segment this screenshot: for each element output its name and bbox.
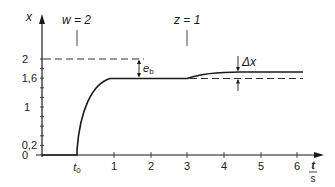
x-tick-5: 5 [258, 160, 264, 172]
x-tick-t0: t0 [73, 161, 81, 175]
delta-arrow-down-icon [236, 67, 240, 72]
y-axis-label: x [25, 10, 33, 24]
setpoint-label: w = 2 [62, 13, 91, 27]
x-axis-arrow-icon [314, 152, 324, 158]
x-tick-2: 2 [148, 160, 154, 172]
response-curve [42, 72, 303, 155]
delta-label: Δx [241, 55, 257, 69]
delta-arrow-up-icon [236, 79, 240, 84]
y-tick-0-2: 0,2 [22, 139, 37, 151]
error-label: eb [143, 62, 154, 76]
error-arrow-up-icon [137, 60, 141, 65]
step-response-diagram: 0 0,2 1 1,6 2 x t0 1 2 3 4 5 6 t s w = 2… [0, 0, 335, 187]
error-arrow-down-icon [137, 73, 141, 78]
x-axis-label-s: s [311, 173, 316, 184]
y-tick-1-6: 1,6 [22, 72, 37, 84]
y-axis-arrow-icon [39, 14, 45, 24]
y-tick-1: 1 [24, 101, 30, 113]
y-tick-2: 2 [22, 53, 28, 65]
x-axis-label-t: t [311, 159, 316, 171]
x-tick-1: 1 [111, 160, 117, 172]
disturbance-label: z = 1 [173, 13, 200, 27]
x-tick-6: 6 [294, 160, 300, 172]
x-tick-3: 3 [184, 160, 190, 172]
x-tick-4: 4 [221, 160, 227, 172]
